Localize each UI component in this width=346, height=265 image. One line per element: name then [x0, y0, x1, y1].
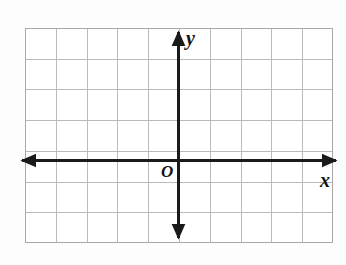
coordinate-plane-figure: y x O — [0, 0, 346, 265]
origin-label: O — [161, 163, 173, 180]
x-axis-label: x — [320, 170, 330, 190]
coordinate-grid-canvas — [0, 0, 346, 265]
y-axis-label: y — [186, 28, 195, 48]
